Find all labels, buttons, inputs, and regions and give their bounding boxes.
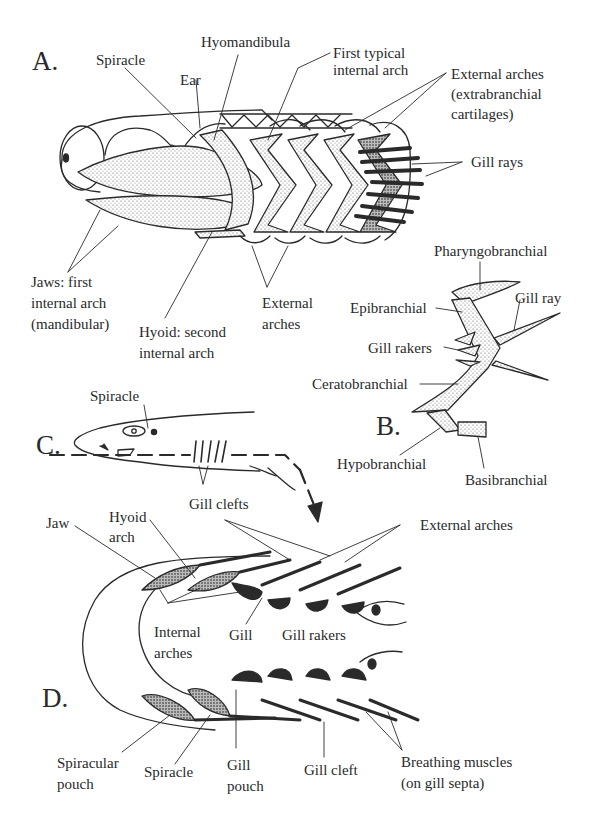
label-c-gill-clefts: Gill clefts xyxy=(189,496,249,513)
label-a-external-arches: External arches (extrabranchial cartilag… xyxy=(451,64,544,124)
panel-a-drawing xyxy=(60,53,462,318)
label-b-gill-rakers: Gill rakers xyxy=(368,340,432,357)
label-d-gill-pouch: Gill pouch xyxy=(227,755,264,797)
label-d-spiracular-pouch: Spiracular pouch xyxy=(57,753,119,795)
diagram-artwork xyxy=(0,0,592,830)
label-d-internal-arches: Internal arches xyxy=(154,622,201,664)
label-a-ear: Ear xyxy=(180,72,201,89)
label-d-jaw: Jaw xyxy=(46,515,69,532)
label-a-jaws: Jaws: first internal arch (mandibular) xyxy=(31,272,109,335)
label-d-spiracle: Spiracle xyxy=(144,764,193,781)
panel-b-letter: B. xyxy=(376,412,401,440)
label-d-gill: Gill xyxy=(229,627,252,644)
label-d-breathing-muscles: Breathing muscles (on gill septa) xyxy=(401,752,512,794)
label-c-spiracle: Spiracle xyxy=(90,388,139,405)
label-b-pharyngobranchial: Pharyngobranchial xyxy=(434,243,547,260)
label-a-hyomandibula: Hyomandibula xyxy=(201,34,290,51)
panel-a-letter: A. xyxy=(32,47,58,75)
panel-c-drawing xyxy=(50,405,322,522)
label-b-epibranchial: Epibranchial xyxy=(350,300,427,317)
label-b-hypobranchial: Hypobranchial xyxy=(337,456,426,473)
label-a-spiracle: Spiracle xyxy=(96,52,145,69)
label-d-gill-rakers: Gill rakers xyxy=(282,627,346,644)
panel-d-letter: D. xyxy=(42,684,68,712)
panel-c-letter: C. xyxy=(36,431,61,459)
label-d-hyoid-arch: Hyoid arch xyxy=(109,507,147,547)
label-b-ceratobranchial: Ceratobranchial xyxy=(312,376,408,393)
label-b-basibranchial: Basibranchial xyxy=(465,472,547,489)
label-b-gill-ray: Gill ray xyxy=(515,290,561,307)
label-a-external-arches-lower: External arches xyxy=(262,293,313,335)
label-d-gill-cleft: Gill cleft xyxy=(304,762,358,779)
label-a-hyoid: Hyoid: second internal arch xyxy=(139,322,226,364)
label-d-external-arches: External arches xyxy=(420,517,513,534)
label-a-first-typical-internal-arch: First typical internal arch xyxy=(333,45,408,79)
label-a-gill-rays: Gill rays xyxy=(471,154,523,171)
